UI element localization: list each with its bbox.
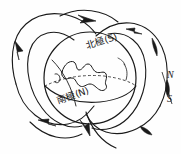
field-diagram-svg (0, 0, 181, 154)
field-line-left-inner (28, 32, 82, 127)
field-line-right-inner (92, 33, 146, 129)
arrowhead-left-up (15, 41, 23, 60)
arrowhead-top-right (78, 15, 96, 23)
field-line-group (12, 10, 167, 148)
globe-edge-mark (124, 64, 127, 80)
arrowhead-right-upper (126, 28, 142, 34)
compass-needle-upper-right (152, 38, 157, 56)
arrowhead-bottom-down (80, 120, 90, 136)
magnetic-field-figure: 北極(S) 南極(N) N S (0, 0, 181, 154)
compass-north-label: N (167, 70, 174, 80)
compass-south-label: S (167, 94, 172, 104)
compass-needle-bottom-right (140, 126, 152, 135)
